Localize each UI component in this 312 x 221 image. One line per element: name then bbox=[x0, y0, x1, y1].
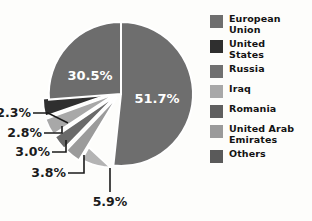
legend-item-others[interactable]: Others bbox=[210, 149, 312, 165]
legend-swatch-icon bbox=[210, 40, 223, 53]
legend-item-european-union[interactable]: European Union bbox=[210, 14, 312, 35]
legend-swatch-icon bbox=[210, 150, 223, 163]
legend-swatch-icon bbox=[210, 85, 223, 98]
legend-label: Others bbox=[229, 149, 266, 160]
legend-label: European Union bbox=[229, 14, 281, 35]
slice-value-european-union: 51.7% bbox=[134, 91, 179, 106]
pie-chart-figure: 51.7% 30.5% 2.3% 2.8% 3.0% 3.8% 5.9% Eur… bbox=[0, 0, 312, 221]
legend-item-romania[interactable]: Romania bbox=[210, 104, 312, 120]
legend-item-united-arab-emirates[interactable]: United Arab Emirates bbox=[210, 124, 312, 145]
callout-value-romania: 3.0% bbox=[15, 144, 50, 159]
legend-item-iraq[interactable]: Iraq bbox=[210, 84, 312, 100]
legend-label: United Arab Emirates bbox=[229, 124, 294, 145]
slice-value-united-states: 30.5% bbox=[67, 68, 112, 83]
legend-swatch-icon bbox=[210, 125, 223, 138]
legend-label: Russia bbox=[229, 64, 265, 75]
callout-value-iraq: 3.8% bbox=[31, 165, 66, 180]
legend-label: Iraq bbox=[229, 84, 251, 95]
callout-value-others: 2.3% bbox=[0, 105, 31, 120]
legend-swatch-icon bbox=[210, 15, 223, 28]
chart-legend: European Union United States Russia Iraq… bbox=[210, 14, 312, 169]
pie-slice-others[interactable] bbox=[82, 147, 111, 167]
pie-slice-united-states[interactable] bbox=[49, 22, 121, 100]
legend-swatch-icon bbox=[210, 105, 223, 118]
legend-label: Romania bbox=[229, 104, 276, 115]
callout-value-uae: 2.8% bbox=[7, 125, 42, 140]
legend-swatch-icon bbox=[210, 65, 223, 78]
legend-label: United States bbox=[229, 39, 265, 60]
legend-item-russia[interactable]: Russia bbox=[210, 64, 312, 80]
callout-value-russia: 5.9% bbox=[93, 194, 128, 209]
legend-item-united-states[interactable]: United States bbox=[210, 39, 312, 60]
